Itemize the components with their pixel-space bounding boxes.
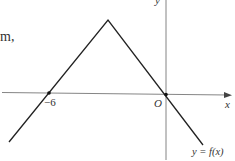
y-axis-label: y: [154, 0, 160, 6]
curve-label: y = f(x): [191, 146, 224, 158]
fragment-text: m,: [0, 29, 14, 44]
x-axis-label: x: [224, 98, 230, 110]
point-x-intercept: [47, 91, 51, 95]
x-intercept-label: −6: [44, 96, 56, 108]
origin-label: O: [154, 97, 162, 109]
graph: m, −6 O x y y = f(x): [0, 0, 235, 161]
function-curve: [9, 20, 203, 145]
x-axis: [2, 93, 228, 96]
point-origin: [164, 93, 168, 97]
